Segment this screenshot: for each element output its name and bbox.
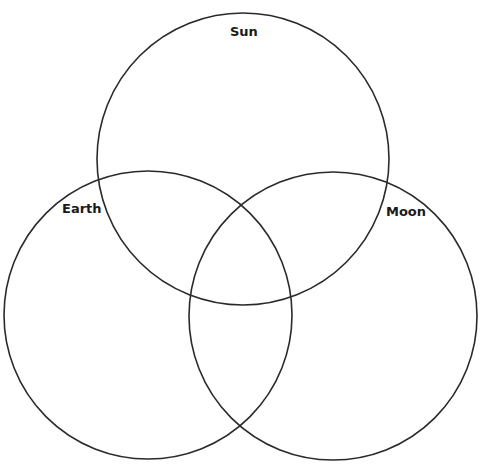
moon-label: Moon (386, 205, 426, 218)
moon-circle (189, 172, 477, 460)
sun-circle (97, 13, 389, 305)
venn-diagram (0, 0, 481, 467)
earth-label: Earth (62, 202, 102, 215)
earth-circle (4, 171, 292, 459)
sun-label: Sun (230, 25, 258, 38)
